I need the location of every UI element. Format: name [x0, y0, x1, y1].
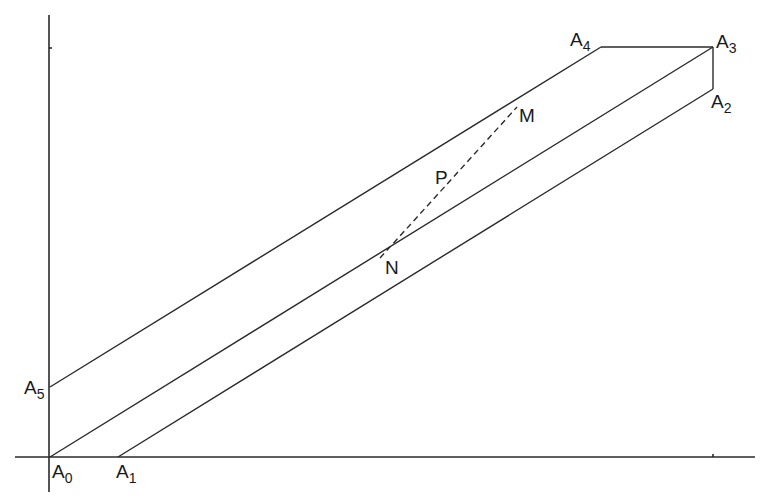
- segment-a5-a4: [50, 47, 601, 387]
- vertex-label-a2: A2: [711, 91, 732, 116]
- axes: [15, 15, 755, 492]
- vertex-label-a3: A3: [716, 31, 737, 56]
- vertex-label-a1: A1: [116, 461, 137, 486]
- vertex-label-a0: A0: [52, 461, 73, 486]
- vertex-label-a4: A4: [570, 29, 591, 54]
- diagram-canvas: A0A1A2A3A4A5MPN: [0, 0, 771, 497]
- point-label-n: N: [385, 257, 399, 278]
- segment-a0-a3: [50, 47, 713, 457]
- point-label-m: M: [519, 105, 535, 126]
- segments: [50, 47, 713, 457]
- vertex-label-a5: A5: [24, 377, 45, 402]
- point-label-p: P: [435, 167, 448, 188]
- segment-a1-a2: [118, 89, 713, 457]
- geometry-figure: A0A1A2A3A4A5MPN: [0, 0, 771, 497]
- segment-n-m: [380, 107, 517, 258]
